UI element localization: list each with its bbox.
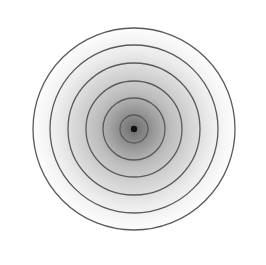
concentric-circles-diagram [0, 0, 266, 265]
center-dot [131, 126, 137, 132]
